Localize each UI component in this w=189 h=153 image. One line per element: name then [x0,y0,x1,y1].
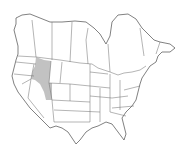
range-map [0,0,189,153]
